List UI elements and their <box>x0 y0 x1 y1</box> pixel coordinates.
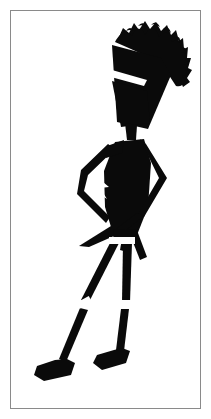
hip-gap <box>109 237 135 244</box>
right-knee-gap <box>120 300 132 307</box>
neck <box>125 123 137 140</box>
artwork-alt-text: Black silhouette of a tall thin figure w… <box>0 0 1 1</box>
artwork-title: Silhouette of a Stylized Standing Figure <box>0 0 1 1</box>
artwork-subject: stylized human figure silhouette with ta… <box>0 0 1 1</box>
artwork-frame: Silhouette of a Stylized Standing Figure… <box>0 0 211 419</box>
figure-silhouette-illustration <box>11 11 200 408</box>
artwork-style: high-contrast black ink silhouette on wh… <box>0 0 1 1</box>
